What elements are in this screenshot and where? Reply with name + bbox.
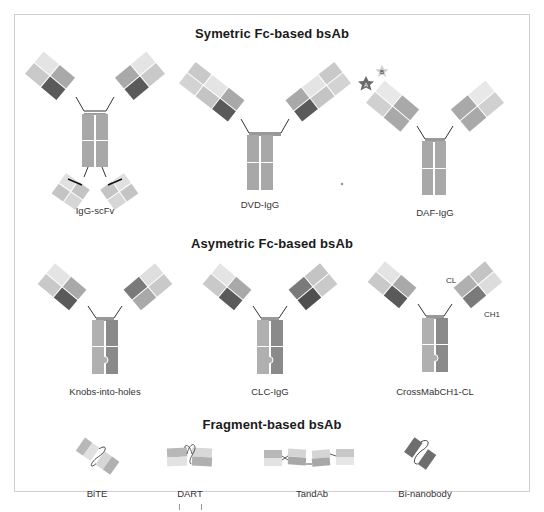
format-label-clc-igg: CLC-IgG — [200, 386, 340, 397]
format-label-dvd-igg: DVD-IgG — [190, 199, 330, 210]
svg-text:B: B — [380, 69, 384, 75]
format-label-bi-nanobody: Bi-nanobody — [355, 488, 495, 499]
domain-label-ch1: CH1 — [484, 310, 500, 319]
section-title-fragment: Fragment-based bsAb — [0, 417, 544, 432]
tandab-diagram — [262, 446, 360, 474]
format-label-daf-igg: DAF-IgG — [365, 207, 505, 218]
daf-igg-diagram: A B — [355, 62, 515, 202]
section-title-symmetric: Symetric Fc-based bsAb — [0, 26, 544, 41]
igg-scfv-diagram — [30, 55, 160, 205]
crop-mark — [179, 504, 180, 510]
svg-text:A: A — [364, 82, 368, 88]
domain-label-cl: CL — [446, 276, 456, 285]
bi-nanobody-diagram — [400, 434, 442, 474]
crossmab-ch1-cl-diagram — [370, 260, 500, 380]
format-label-igg-scfv: IgG-scFv — [25, 205, 165, 216]
clc-igg-diagram — [205, 262, 335, 382]
dvd-igg-diagram — [185, 55, 345, 195]
crop-mark — [201, 504, 202, 510]
format-label-dart: DART — [120, 488, 260, 499]
bite-diagram — [72, 436, 122, 478]
format-label-crossmab-ch1-cl: CrossMabCH1-CL — [365, 386, 505, 397]
dart-diagram — [165, 440, 215, 470]
antigen-b-star-icon: B — [376, 65, 389, 77]
antigen-a-star-icon: A — [358, 76, 374, 91]
knobs-into-holes-diagram — [40, 262, 170, 382]
section-title-asymmetric: Asymetric Fc-based bsAb — [0, 236, 544, 251]
format-label-knobs-into-holes: Knobs-into-holes — [35, 386, 175, 397]
